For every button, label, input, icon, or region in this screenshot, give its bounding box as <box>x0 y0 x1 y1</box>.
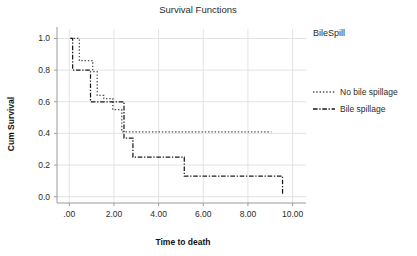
series-line-no-bile-spillage <box>70 38 271 131</box>
chart-title: Survival Functions <box>159 4 237 15</box>
x-axis-label: Time to death <box>155 237 210 247</box>
survival-functions-chart: Survival Functions BileSpill .002.004.00… <box>0 0 417 256</box>
x-tick-label-1: 2.00 <box>106 209 123 219</box>
y-tick-label-1: 0.2 <box>38 160 50 170</box>
y-axis-label: Cum Survival <box>6 97 16 151</box>
legend-label-bile-spillage: Bile spillage <box>340 104 386 114</box>
legend: No bile spillageBile spillage <box>313 87 398 114</box>
grid-lines <box>57 29 306 203</box>
x-axis-ticks: .002.004.006.008.0010.00 <box>63 203 303 219</box>
series-lines <box>70 38 282 195</box>
y-tick-label-4: 0.8 <box>38 65 50 75</box>
x-tick-label-3: 6.00 <box>195 209 212 219</box>
series-line-bile-spillage <box>70 38 282 195</box>
legend-label-no-bile-spillage: No bile spillage <box>340 87 398 97</box>
y-tick-label-0: 0.0 <box>38 192 50 202</box>
x-tick-label-2: 4.00 <box>150 209 167 219</box>
y-axis-ticks: 0.00.20.40.60.81.0 <box>38 33 57 201</box>
chart-canvas: Survival Functions BileSpill .002.004.00… <box>0 0 417 256</box>
x-tick-label-0: .00 <box>63 209 75 219</box>
x-tick-label-5: 10.00 <box>282 209 304 219</box>
legend-title: BileSpill <box>313 28 345 38</box>
x-tick-label-4: 8.00 <box>240 209 257 219</box>
y-tick-label-5: 1.0 <box>38 33 50 43</box>
y-tick-label-2: 0.4 <box>38 128 50 138</box>
y-tick-label-3: 0.6 <box>38 97 50 107</box>
